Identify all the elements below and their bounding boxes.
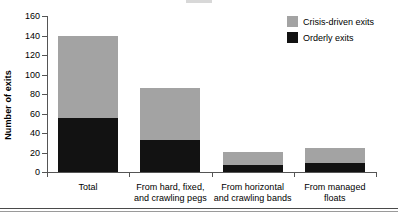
x-axis-category-label: From horizontaland crawling bands: [212, 182, 294, 204]
bar-segment-orderly-exits: [140, 140, 200, 172]
bar-stack: [305, 148, 365, 172]
x-axis-category-label-line: and crawling bands: [212, 193, 294, 204]
y-tick-mark: [42, 114, 47, 115]
y-tick-mark: [42, 55, 47, 56]
y-axis-line: [47, 16, 48, 172]
legend: Crisis-driven exitsOrderly exits: [287, 16, 374, 43]
bar-stack: [58, 36, 118, 172]
y-tick-label: 40: [30, 128, 40, 138]
x-axis-category-label: Total: [47, 182, 129, 193]
x-axis-category-label-line: From managed: [294, 182, 376, 193]
y-tick-label: 0: [35, 167, 40, 177]
x-axis-category-label-line: Total: [47, 182, 129, 193]
y-tick-label: 160: [25, 11, 40, 21]
y-tick-mark: [42, 153, 47, 154]
y-tick-label: 120: [25, 50, 40, 60]
x-tick-mark: [294, 172, 295, 177]
y-tick-mark: [42, 16, 47, 17]
y-tick-mark: [42, 133, 47, 134]
legend-label: Crisis-driven exits: [303, 17, 374, 27]
x-tick-mark: [212, 172, 213, 177]
x-axis-category-label: From managedfloats: [294, 182, 376, 204]
bottom-rule: [0, 208, 398, 212]
bar-segment-crisis-driven-exits: [305, 148, 365, 164]
x-axis-category-label-line: From hard, fixed,: [129, 182, 211, 193]
bar-segment-orderly-exits: [223, 165, 283, 172]
y-tick-label: 140: [25, 31, 40, 41]
y-tick-label: 20: [30, 148, 40, 158]
cropped-title-remnant: [186, 0, 212, 3]
x-axis-category-label-line: floats: [294, 193, 376, 204]
bar-segment-orderly-exits: [305, 163, 365, 172]
y-tick-mark: [42, 94, 47, 95]
x-axis-category-label-line: From horizontal: [212, 182, 294, 193]
bar-segment-crisis-driven-exits: [140, 88, 200, 140]
legend-color-swatch: [287, 16, 298, 27]
y-tick-label: 60: [30, 109, 40, 119]
x-axis-category-label-line: and crawling pegs: [129, 193, 211, 204]
bar-stack: [223, 152, 283, 172]
x-tick-mark: [129, 172, 130, 177]
y-axis-title: Number of exits: [0, 60, 16, 150]
bar-segment-crisis-driven-exits: [58, 36, 118, 118]
y-axis-title-text: Number of exits: [3, 70, 13, 140]
legend-item: Orderly exits: [287, 32, 374, 43]
y-tick-mark: [42, 75, 47, 76]
y-tick-mark: [42, 36, 47, 37]
x-tick-mark: [47, 172, 48, 177]
y-tick-label: 80: [30, 89, 40, 99]
legend-item: Crisis-driven exits: [287, 16, 374, 27]
y-tick-label: 100: [25, 70, 40, 80]
bar-stack: [140, 88, 200, 172]
legend-color-swatch: [287, 32, 298, 43]
x-axis-category-label: From hard, fixed,and crawling pegs: [129, 182, 211, 204]
x-tick-mark: [376, 172, 377, 177]
bar-segment-orderly-exits: [58, 118, 118, 172]
chart-figure: Number of exits 020406080100120140160 To…: [0, 0, 398, 220]
bar-segment-crisis-driven-exits: [223, 152, 283, 166]
legend-label: Orderly exits: [303, 33, 354, 43]
